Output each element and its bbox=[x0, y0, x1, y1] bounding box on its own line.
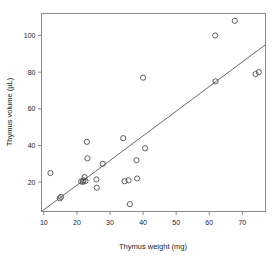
x-tick-label: 70 bbox=[238, 219, 246, 226]
data-point bbox=[232, 18, 237, 23]
x-tick-label: 10 bbox=[40, 219, 48, 226]
data-point bbox=[140, 75, 145, 80]
plot-frame bbox=[42, 14, 266, 212]
y-tick-label: 20 bbox=[28, 179, 36, 186]
data-point bbox=[213, 33, 218, 38]
data-point bbox=[94, 177, 99, 182]
x-axis-tick-labels: 10203040506070 bbox=[40, 219, 246, 226]
data-point bbox=[121, 136, 126, 141]
x-axis-label: Thymus weight (mg) bbox=[119, 242, 187, 251]
y-tick-label: 100 bbox=[24, 32, 36, 39]
x-axis-tick-marks bbox=[44, 212, 243, 216]
data-point bbox=[94, 185, 99, 190]
y-axis-tick-labels: 20406080100 bbox=[24, 32, 36, 186]
chart-canvas: 20406080100 10203040506070 Thymus weight… bbox=[0, 0, 277, 262]
y-tick-label: 60 bbox=[28, 105, 36, 112]
x-tick-label: 40 bbox=[139, 219, 147, 226]
x-tick-label: 50 bbox=[172, 219, 180, 226]
data-point bbox=[48, 170, 53, 175]
y-axis-label: Thymus volume (µL) bbox=[5, 77, 14, 146]
x-tick-label: 60 bbox=[205, 219, 213, 226]
data-point bbox=[84, 139, 89, 144]
y-tick-label: 80 bbox=[28, 69, 36, 76]
data-point-group bbox=[48, 18, 262, 207]
data-point bbox=[127, 202, 132, 207]
scatter-plot-figure: 20406080100 10203040506070 Thymus weight… bbox=[0, 0, 277, 262]
x-tick-label: 30 bbox=[106, 219, 114, 226]
x-tick-label: 20 bbox=[73, 219, 81, 226]
data-point bbox=[85, 156, 90, 161]
regression-line bbox=[42, 45, 266, 212]
y-tick-label: 40 bbox=[28, 142, 36, 149]
data-point bbox=[142, 146, 147, 151]
data-point bbox=[135, 176, 140, 181]
y-axis-tick-marks bbox=[38, 36, 42, 183]
data-point bbox=[134, 158, 139, 163]
